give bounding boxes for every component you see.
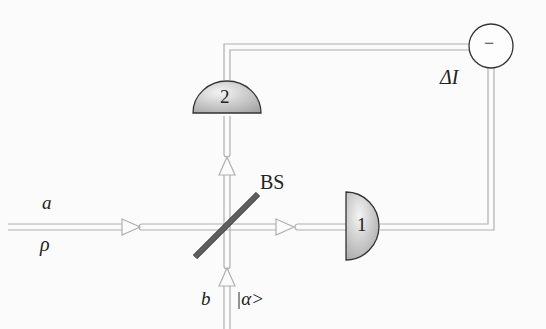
label-detector-1: 1 — [357, 214, 367, 236]
beam-splitter — [195, 194, 258, 257]
label-subtractor: − — [484, 33, 494, 54]
wire-det2-to-subtractor — [224, 44, 470, 80]
homodyne-diagram: a ρ b |α> BS 2 1 − ΔI — [0, 0, 546, 329]
label-input-rho: ρ — [40, 233, 50, 256]
label-input-b: b — [201, 288, 211, 310]
label-beam-splitter: BS — [260, 171, 284, 194]
diagram-graphics — [0, 0, 546, 329]
beam-a — [8, 219, 346, 235]
label-detector-2: 2 — [220, 86, 230, 108]
label-coherent-state: |α> — [236, 288, 264, 310]
label-input-a: a — [42, 192, 52, 214]
label-output-delta-i: ΔI — [440, 66, 458, 89]
wire-det1-to-subtractor — [380, 68, 494, 230]
